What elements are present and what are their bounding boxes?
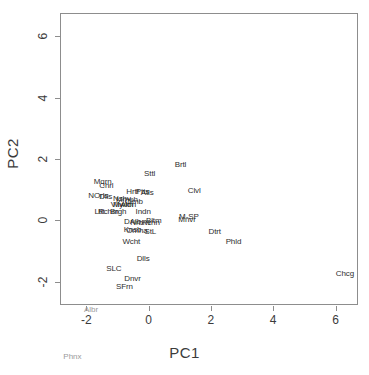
- x-tick-mark: [273, 306, 274, 311]
- y-tick-mark: [55, 36, 60, 37]
- y-tick-label: 2: [36, 150, 50, 168]
- data-point-label: Brtl: [175, 159, 187, 168]
- data-point-label: Indn: [136, 207, 151, 216]
- y-tick-mark: [55, 220, 60, 221]
- data-point-label: Atls: [141, 187, 154, 196]
- x-tick-label: 2: [199, 313, 223, 327]
- data-point-label: Phnx: [63, 351, 81, 360]
- x-tick-mark: [149, 306, 150, 311]
- x-tick-label: 6: [324, 313, 348, 327]
- y-tick-label: 6: [36, 27, 50, 45]
- x-tick-label: -2: [74, 313, 98, 327]
- y-tick-label: 0: [36, 211, 50, 229]
- data-point-label: Dlls: [137, 253, 150, 262]
- y-tick-label: 4: [36, 89, 50, 107]
- x-tick-label: 0: [137, 313, 161, 327]
- y-axis-title: PC2: [4, 124, 21, 184]
- data-point-label: Phld: [226, 237, 242, 246]
- y-tick-mark: [55, 159, 60, 160]
- x-tick-mark: [211, 306, 212, 311]
- data-point-label: Dtrt: [209, 226, 222, 235]
- data-point-label: Albr: [84, 304, 98, 313]
- data-point-label: SFrn: [116, 281, 133, 290]
- data-point-label: SLC: [106, 264, 121, 273]
- y-tick-mark: [55, 98, 60, 99]
- data-point-label: Bltm: [146, 216, 162, 225]
- data-point-label: StL: [144, 226, 156, 235]
- x-tick-label: 4: [261, 313, 285, 327]
- data-point-label: Sttl: [144, 168, 155, 177]
- data-point-label: Wcht: [122, 236, 140, 245]
- data-point-label: Clvl: [188, 185, 201, 194]
- plot-frame: [60, 13, 358, 305]
- x-axis-title: PC1: [0, 344, 369, 361]
- pca-scatter-plot: PC1 PC2 -20246-20246 MqrnChrlNOrlsDllsHr…: [0, 0, 369, 375]
- x-tick-mark: [336, 306, 337, 311]
- y-tick-mark: [55, 282, 60, 283]
- data-point-label: Chrl: [99, 181, 113, 190]
- data-point-label: Brgh: [110, 207, 127, 216]
- y-tick-label: -2: [36, 273, 50, 291]
- data-point-label: Chcg: [336, 268, 354, 277]
- data-point-label: Mnvr: [178, 214, 195, 223]
